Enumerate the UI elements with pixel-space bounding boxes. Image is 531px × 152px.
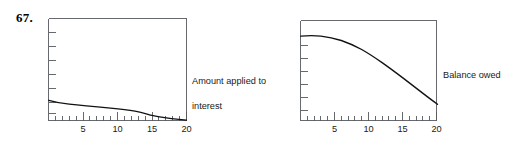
x-tick-label-10: 10 [112,124,122,134]
annotation-line-1: Amount applied to [192,76,266,86]
x-axis-ticks [307,112,436,121]
y-axis-ticks [301,46,308,111]
annotation-balance-owed: Balance owed [443,69,529,82]
x-tick-label-20: 20 [181,124,191,134]
annotation-line-2: interest [192,101,222,111]
annotation-amount-applied-to-interest: Amount applied to interest [192,62,290,112]
figure-root: 67. [0,0,531,152]
chart-panel-interest: 5 10 15 20 [0,0,200,152]
data-curve-balance [301,36,438,105]
x-tick-label-5: 5 [80,124,85,134]
x-tick-label-15: 15 [147,124,157,134]
x-axis-ticks [55,112,186,121]
